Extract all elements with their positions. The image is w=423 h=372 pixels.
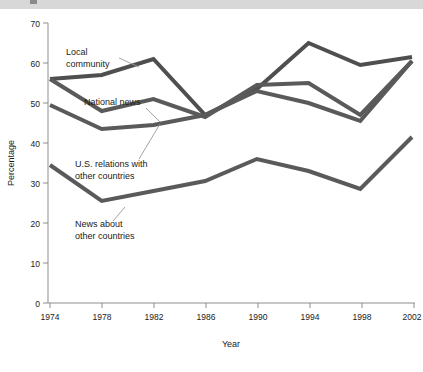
chart-svg: 70 60 50 40 30 20 10 0 1974 1978 1982	[0, 9, 423, 372]
annotation-us-relations-line2: other countries	[75, 171, 135, 181]
annotation-news-about-line1: News about	[75, 219, 123, 229]
annotation-national-news-line1: National news	[84, 97, 141, 107]
x-axis-title: Year	[222, 339, 240, 349]
leader-line-national-news	[146, 108, 160, 122]
series-line-2	[50, 61, 412, 129]
y-tick-label-70: 70	[31, 19, 41, 29]
line-chart: 70 60 50 40 30 20 10 0 1974 1978 1982	[0, 9, 423, 372]
x-axis-ticks	[50, 303, 414, 308]
leader-line-us-relations	[139, 124, 160, 159]
y-tick-label-0: 0	[35, 299, 40, 309]
banner-mark-icon	[30, 0, 37, 4]
x-tick-label-2002: 2002	[403, 312, 422, 322]
y-axis-ticks	[43, 23, 48, 303]
top-banner	[0, 0, 423, 9]
x-tick-label-1974: 1974	[41, 312, 60, 322]
chart-page: 70 60 50 40 30 20 10 0 1974 1978 1982	[0, 0, 423, 372]
y-tick-label-40: 40	[31, 139, 41, 149]
y-tick-label-60: 60	[31, 59, 41, 69]
y-tick-label-10: 10	[31, 259, 41, 269]
y-axis-title: Percentage	[6, 140, 16, 186]
x-tick-label-1982: 1982	[145, 312, 164, 322]
y-tick-label-50: 50	[31, 99, 41, 109]
y-tick-label-30: 30	[31, 179, 41, 189]
annotation-local-community-line1: Local	[66, 47, 88, 57]
x-tick-label-1986: 1986	[197, 312, 216, 322]
y-tick-label-20: 20	[31, 219, 41, 229]
annotation-news-about-line2: other countries	[75, 231, 135, 241]
x-tick-label-1990: 1990	[249, 312, 268, 322]
annotation-local-community-line2: community	[66, 59, 110, 69]
x-tick-label-1978: 1978	[93, 312, 112, 322]
annotation-us-relations-line1: U.S. relations with	[75, 159, 148, 169]
series-line-3	[50, 137, 412, 201]
x-tick-label-1998: 1998	[353, 312, 372, 322]
series-line-1	[50, 61, 412, 117]
x-tick-label-1994: 1994	[301, 312, 320, 322]
